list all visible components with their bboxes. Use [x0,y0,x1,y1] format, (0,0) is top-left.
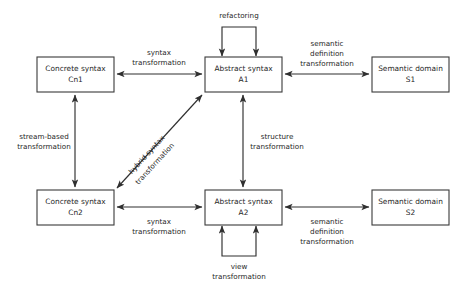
edge-hybrid-syntax-transformation: hybrid syntax transformation [117,95,202,188]
refactoring-loop-line [222,27,256,56]
node-a1-label-1: Abstract syntax [214,64,273,73]
stream-based-transformation-label-1: stream-based [19,132,68,141]
edge-syntax-transformation-top: syntax transformation [117,48,202,74]
syntax-transformation-top-label-2: transformation [132,58,185,67]
refactoring-label: refactoring [219,11,258,20]
node-cn1[interactable]: Concrete syntax Cn1 [37,57,114,92]
node-s2-label-1: Semantic domain [378,197,443,206]
node-cn1-label-2: Cn1 [68,75,83,84]
edge-semantic-definition-transformation-top: semantic definition transformation [285,39,369,74]
syntax-transformation-top-label-1: syntax [147,48,172,57]
node-s2[interactable]: Semantic domain S2 [372,190,449,225]
node-cn2-label-2: Cn2 [68,208,83,217]
semantic-definition-transformation-bottom-label-1: semantic [311,217,344,226]
structure-transformation-label-2: transformation [250,142,303,151]
stream-based-transformation-label-2: transformation [17,142,70,151]
edge-syntax-transformation-bottom: syntax transformation [117,207,202,236]
edge-view-transformation: view transformation [212,226,265,281]
node-a1[interactable]: Abstract syntax A1 [205,57,282,92]
structure-transformation-label-1: structure [261,132,294,141]
syntax-transformation-bottom-label-2: transformation [132,227,185,236]
semantic-definition-transformation-bottom-label-3: transformation [300,237,353,246]
node-cn2[interactable]: Concrete syntax Cn2 [37,190,114,225]
semantic-definition-transformation-bottom-label-2: definition [310,227,344,236]
node-cn2-label-1: Concrete syntax [45,197,106,206]
node-a2-label-1: Abstract syntax [214,197,273,206]
semantic-definition-transformation-top-label-2: definition [310,49,344,58]
node-s1-label-2: S1 [406,75,416,84]
node-s1[interactable]: Semantic domain S1 [372,57,449,92]
view-transformation-loop-line [222,226,256,256]
node-cn1-label-1: Concrete syntax [45,64,106,73]
edge-stream-based-transformation: stream-based transformation [17,95,75,187]
node-s2-label-2: S2 [406,208,415,217]
node-a2[interactable]: Abstract syntax A2 [205,190,282,225]
semantic-definition-transformation-top-label-1: semantic [311,39,344,48]
diagram-canvas: refactoring syntax transformation semant… [0,0,459,294]
node-a1-label-2: A1 [239,75,249,84]
semantic-definition-transformation-top-label-3: transformation [300,59,353,68]
edge-structure-transformation: structure transformation [243,95,304,187]
view-transformation-label-1: view [231,262,248,271]
edge-refactoring: refactoring [219,11,258,56]
edge-semantic-definition-transformation-bottom: semantic definition transformation [285,207,369,246]
node-s1-label-1: Semantic domain [378,64,443,73]
view-transformation-label-2: transformation [212,272,265,281]
transformation-diagram: refactoring syntax transformation semant… [0,0,459,294]
node-a2-label-2: A2 [239,208,249,217]
syntax-transformation-bottom-label-1: syntax [147,217,172,226]
